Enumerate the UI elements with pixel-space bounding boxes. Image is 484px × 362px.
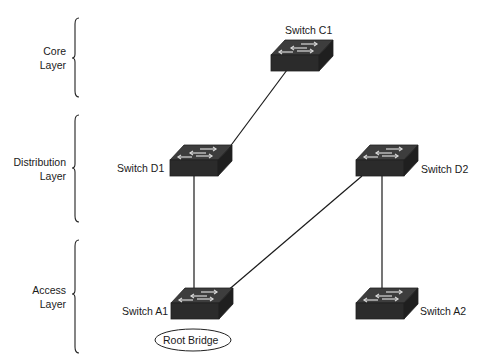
switch-c1-icon	[271, 40, 333, 71]
distribution-layer-label: Distribution Layer	[2, 155, 66, 183]
layer-braces	[72, 18, 79, 353]
core-layer-label: Core Layer	[2, 44, 66, 72]
layer-label-line: Layer	[2, 169, 66, 183]
distribution-brace	[72, 115, 79, 222]
root-bridge-label: Root Bridge	[163, 334, 218, 347]
switch-a2-icon	[356, 288, 418, 319]
access-brace	[72, 240, 79, 353]
switch-d1-icon	[170, 145, 232, 176]
links	[194, 70, 382, 292]
access-layer-label: Access Layer	[2, 283, 66, 311]
link-d2-a1	[226, 176, 362, 292]
layer-label-line: Layer	[2, 58, 66, 72]
switch-a1-label: Switch A1	[122, 305, 168, 318]
layer-label-line: Access	[2, 283, 66, 297]
switch-a2-label: Switch A2	[420, 305, 466, 318]
layer-label-line: Layer	[2, 297, 66, 311]
layer-label-line: Core	[2, 44, 66, 58]
link-c1-d1	[229, 70, 287, 148]
switch-a1-icon	[171, 288, 233, 319]
switch-d2-icon	[356, 145, 418, 176]
switch-d2-label: Switch D2	[421, 163, 468, 176]
topology-diagram	[0, 0, 484, 362]
core-brace	[72, 18, 79, 97]
switch-d1-label: Switch D1	[117, 162, 164, 175]
layer-label-line: Distribution	[2, 155, 66, 169]
switch-c1-label: Switch C1	[285, 24, 332, 37]
